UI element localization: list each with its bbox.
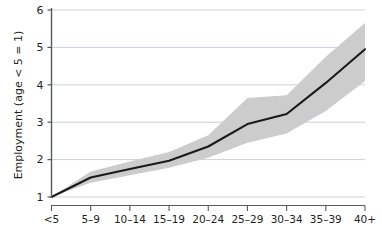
x-tick-label-3: 15–19 bbox=[153, 213, 185, 225]
x-tick-label-7: 35–39 bbox=[310, 213, 342, 225]
chart-background bbox=[0, 0, 382, 239]
x-tick-label-8: 40+ bbox=[354, 213, 376, 225]
y-tick-label-2: 2 bbox=[37, 153, 44, 166]
employment-by-age-line-chart: 123456 <55–910–1415–1920–2425–2930–3435–… bbox=[0, 0, 382, 239]
x-tick-label-0: <5 bbox=[44, 213, 59, 225]
x-tick-label-6: 30–34 bbox=[271, 213, 303, 225]
x-tick-label-2: 10–14 bbox=[114, 213, 146, 225]
y-tick-label-3: 3 bbox=[37, 116, 44, 129]
y-tick-label-1: 1 bbox=[37, 191, 44, 204]
y-tick-label-5: 5 bbox=[37, 41, 44, 54]
x-tick-label-5: 25–29 bbox=[231, 213, 263, 225]
x-tick-label-1: 5–9 bbox=[81, 213, 100, 225]
x-tick-label-4: 20–24 bbox=[192, 213, 224, 225]
y-tick-label-6: 6 bbox=[37, 4, 44, 17]
chart-figure: 123456 <55–910–1415–1920–2425–2930–3435–… bbox=[0, 0, 382, 239]
y-tick-label-4: 4 bbox=[37, 79, 44, 92]
y-axis-title: Employment (age < 5 = 1) bbox=[12, 31, 25, 180]
x-axis-tick-labels: <55–910–1415–1920–2425–2930–3435–3940+ bbox=[44, 213, 376, 225]
